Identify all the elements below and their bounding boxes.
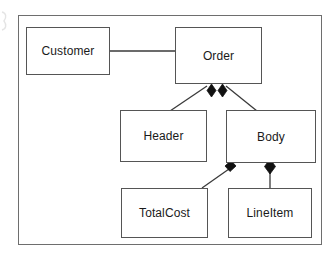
relationship-order-header[interactable]: [170, 84, 216, 111]
class-label-body: Body: [257, 131, 285, 143]
composition-line-order-body: [226, 86, 257, 111]
composition-diamond-order-body: [218, 84, 227, 97]
relationship-body-lineitem[interactable]: [265, 159, 276, 189]
class-label-customer: Customer: [42, 45, 95, 57]
class-label-order: Order: [203, 50, 234, 62]
composition-line-body-totalcost: [202, 169, 229, 188]
class-label-header: Header: [144, 130, 184, 142]
class-box-body[interactable]: Body: [226, 110, 316, 163]
relationship-body-totalcost[interactable]: [202, 161, 236, 189]
class-box-order[interactable]: Order: [175, 27, 262, 84]
relationship-order-body[interactable]: [218, 84, 257, 111]
uml-class-diagram: Customer Order Header Body TotalCost Lin…: [0, 0, 334, 258]
class-label-lineitem: LineItem: [247, 207, 294, 219]
class-box-header[interactable]: Header: [120, 110, 207, 162]
class-box-lineitem[interactable]: LineItem: [228, 188, 312, 238]
composition-diamond-order-header: [207, 84, 216, 97]
composition-line-order-header: [170, 86, 207, 111]
class-box-totalcost[interactable]: TotalCost: [121, 188, 208, 238]
class-label-totalcost: TotalCost: [139, 207, 190, 219]
class-box-customer[interactable]: Customer: [26, 27, 110, 75]
